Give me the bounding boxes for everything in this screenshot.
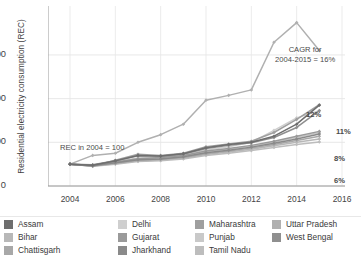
x-tick-2016: 2016 [333, 194, 352, 204]
annotation-cagr-line2: 2004-2015 = 16% [275, 55, 335, 65]
y-axis-title: Residential electricity consumption (REC… [17, 2, 26, 192]
legend-swatch-icon [195, 233, 204, 242]
legend-item-label: Tamil Nadu [209, 245, 251, 255]
legend-swatch-icon [195, 246, 204, 255]
series-label-8pct: 8% [334, 154, 345, 163]
legend-divider [0, 216, 361, 217]
y-tick-label: 400 [0, 93, 6, 103]
legend-item-label: Chattisgarh [18, 245, 60, 255]
legend-item-jharkhand[interactable]: Jharkhand [118, 245, 171, 255]
series-label-6pct: 6% [334, 176, 345, 185]
legend-swatch-icon [272, 233, 281, 242]
line-chart-svg [48, 6, 345, 190]
legend-swatch-icon [4, 246, 13, 255]
legend-swatch-icon [118, 220, 127, 229]
legend-item-punjab[interactable]: Punjab [195, 232, 235, 242]
legend-swatch-icon [118, 246, 127, 255]
series-label-11pct: 11% [336, 127, 351, 136]
annotation-baseline: REC in 2004 = 100 [60, 143, 124, 152]
legend-swatch-icon [195, 220, 204, 229]
legend-swatch-icon [272, 220, 281, 229]
x-tick-2006: 2006 [106, 194, 125, 204]
legend-item-assam[interactable]: Assam [4, 219, 43, 229]
legend-item-label: Uttar Pradesh [286, 219, 337, 229]
plot-area [48, 6, 345, 190]
legend-swatch-icon [4, 220, 13, 229]
legend-item-bihar[interactable]: Bihar [4, 232, 37, 242]
x-tick-2010: 2010 [197, 194, 216, 204]
legend-item-label: West Bengal [286, 232, 333, 242]
legend-item-label: Jharkhand [132, 245, 171, 255]
legend-swatch-icon [118, 233, 127, 242]
annotation-cagr-line1: CAGR for [275, 45, 335, 55]
legend-item-gujarat[interactable]: Gujarat [118, 232, 159, 242]
legend-swatch-icon [4, 233, 13, 242]
legend-item-west-bengal[interactable]: West Bengal [272, 232, 333, 242]
x-tick-2008: 2008 [151, 194, 170, 204]
legend-item-maharashtra[interactable]: Maharashtra [195, 219, 256, 229]
y-tick-label: 0 [1, 180, 6, 190]
x-tick-2004: 2004 [61, 194, 80, 204]
y-tick-label: 600 [0, 49, 6, 59]
legend-item-delhi[interactable]: Delhi [118, 219, 151, 229]
x-tick-2012: 2012 [242, 194, 261, 204]
legend-item-label: Gujarat [132, 232, 159, 242]
legend-item-label: Assam [18, 219, 43, 229]
chart-legend: AssamBiharChattisgarhDelhiGujaratJharkha… [0, 219, 361, 266]
legend-item-label: Bihar [18, 232, 37, 242]
legend-item-uttar-pradesh[interactable]: Uttar Pradesh [272, 219, 337, 229]
legend-item-label: Delhi [132, 219, 151, 229]
series-label-12pct: 12% [306, 110, 321, 119]
legend-item-label: Maharashtra [209, 219, 256, 229]
x-tick-2014: 2014 [287, 194, 306, 204]
legend-item-label: Punjab [209, 232, 235, 242]
annotation-cagr: CAGR for 2004-2015 = 16% [275, 45, 335, 65]
legend-item-chattisgarh[interactable]: Chattisgarh [4, 245, 60, 255]
y-tick-label: 200 [0, 136, 6, 146]
legend-item-tamil-nadu[interactable]: Tamil Nadu [195, 245, 251, 255]
